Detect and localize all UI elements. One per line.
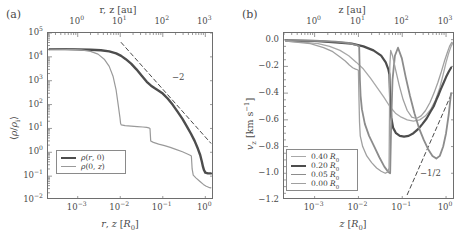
panel-b-slope-annotation: −1/2 (420, 168, 441, 178)
panel-b-y-axis-label: vz [km s−1] (244, 98, 255, 150)
legend-item: 0.05 R0 (291, 170, 353, 179)
panel-b-legend: 0.40 R00.20 R00.05 R00.00 R0 (286, 149, 358, 191)
panel-a-curves (48, 33, 213, 199)
tick-label: 10−3 (298, 202, 330, 212)
tick-label: 10−2 (11, 194, 43, 204)
panel-a-top-axis-label: r, z [au] (78, 4, 158, 15)
legend-swatch (291, 183, 306, 184)
legend-label: ρ(r, 0) (81, 153, 104, 162)
tick-label: 103 (11, 75, 43, 85)
legend-label: 0.40 R0 (311, 152, 339, 161)
legend-label: 0.20 R0 (311, 161, 339, 170)
curve (121, 42, 211, 143)
tick-label: 10−1 (385, 202, 417, 212)
legend-swatch (61, 157, 76, 159)
tick-label: 10−1 (11, 170, 43, 180)
curve (286, 40, 451, 136)
legend-item: 0.20 R0 (291, 161, 353, 170)
tick-label: 102 (146, 16, 178, 26)
tick-label: 100 (61, 16, 93, 26)
panel-b-bottom-axis-label: z [R0] (328, 218, 378, 229)
panel-a-bottom-axis-label: r, z [R0] (90, 218, 150, 229)
tick-label: −0.4 (247, 87, 279, 97)
panel-a-tag: (a) (6, 8, 21, 21)
tick-label: 10−2 (341, 202, 373, 212)
legend-label: ρ(0, z) (81, 162, 105, 171)
panel-b-top-axis-label: z [au] (322, 4, 382, 15)
legend-label: 0.05 R0 (311, 170, 339, 179)
legend-swatch (291, 165, 306, 167)
tick-label: 101 (103, 16, 135, 26)
tick-label: 10−1 (146, 202, 178, 212)
tick-label: −0.2 (247, 60, 279, 70)
figure-container: (a) r, z [au] 100101102103 10−310−210−11… (0, 0, 472, 240)
tick-label: 101 (341, 16, 373, 26)
legend-swatch (61, 166, 76, 167)
curve (286, 41, 453, 121)
panel-a-slope-annotation: −2 (172, 72, 185, 82)
tick-label: 0.0 (247, 34, 279, 44)
tick-label: 100 (188, 202, 220, 212)
tick-label: 100 (429, 202, 461, 212)
tick-label: 104 (11, 51, 43, 61)
legend-swatch (291, 156, 306, 157)
tick-label: 102 (11, 99, 43, 109)
tick-label: 105 (11, 27, 43, 37)
tick-label: 103 (429, 16, 461, 26)
legend-item: ρ(r, 0) (61, 153, 121, 162)
panel-b: (b) z [au] 100101102103 10−310−210−1100 … (236, 0, 472, 240)
panel-a-y-axis-label: ⟨ρ/ρi⟩ (8, 116, 19, 140)
tick-label: −1.2 (247, 194, 279, 204)
legend-item: 0.40 R0 (291, 152, 353, 161)
tick-label: 100 (11, 146, 43, 156)
panel-a: (a) r, z [au] 100101102103 10−310−210−11… (0, 0, 236, 240)
panel-a-legend: ρ(r, 0)ρ(0, z) (56, 150, 126, 174)
legend-swatch (291, 174, 306, 175)
tick-label: 10−2 (103, 202, 135, 212)
tick-label: 102 (385, 16, 417, 26)
panel-b-tag: (b) (242, 8, 258, 21)
legend-item: ρ(0, z) (61, 162, 121, 171)
tick-label: 103 (188, 16, 220, 26)
tick-label: −1.0 (247, 167, 279, 177)
legend-label: 0.00 R0 (311, 179, 339, 188)
tick-label: 10−3 (61, 202, 93, 212)
legend-item: 0.00 R0 (291, 179, 353, 188)
tick-label: 100 (298, 16, 330, 26)
